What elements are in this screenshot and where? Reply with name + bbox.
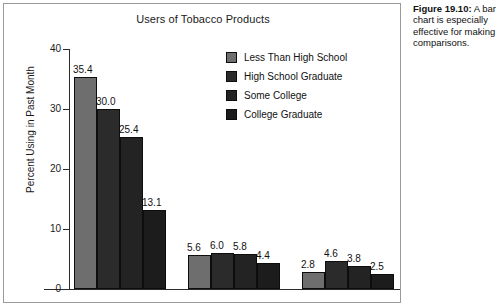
bar-value-label: 2.8: [301, 260, 315, 270]
bar-value-label: 25.4: [119, 125, 138, 135]
bar[interactable]: [234, 254, 257, 289]
bar-group: 35.430.025.413.1: [74, 49, 166, 289]
bar[interactable]: [348, 266, 371, 289]
y-axis-title: Percent Using in Past Month: [25, 30, 36, 230]
y-tick-label: 20: [31, 164, 61, 174]
y-tick-label: 10: [31, 224, 61, 234]
legend-item[interactable]: Less Than High School: [226, 49, 396, 66]
bar-value-label: 35.4: [73, 65, 92, 75]
bar-value-label: 2.5: [370, 262, 384, 272]
bar-value-label: 3.8: [347, 254, 361, 264]
bar-value-label: 6.0: [210, 241, 224, 251]
legend-item[interactable]: Some College: [226, 87, 396, 104]
y-tick-label: 30: [31, 104, 61, 114]
bar-value-label: 30.0: [96, 97, 115, 107]
figure-number: Figure 19.10:: [413, 3, 472, 14]
y-tick-label-wrap: 20: [4, 164, 61, 174]
y-tick-label: 0: [31, 284, 61, 294]
x-axis-line: [44, 289, 400, 290]
y-tick-label-wrap: 30: [4, 104, 61, 114]
bar[interactable]: [143, 210, 166, 289]
legend-swatch-icon: [226, 52, 237, 63]
y-tick-label: 40: [31, 44, 61, 54]
legend-swatch-icon: [226, 109, 237, 120]
y-tick-mark: [63, 229, 69, 230]
bar[interactable]: [120, 137, 143, 289]
chart-legend: Less Than High SchoolHigh School Graduat…: [226, 49, 396, 125]
legend-swatch-icon: [226, 90, 237, 101]
legend-label: Some College: [244, 90, 307, 101]
bar[interactable]: [371, 274, 394, 289]
figure-page: Users of Tobacco Products Percent Using …: [0, 0, 504, 306]
legend-label: College Graduate: [244, 109, 322, 120]
bar[interactable]: [302, 272, 325, 289]
y-tick-mark: [63, 49, 69, 50]
y-tick-label-wrap: 40: [4, 44, 61, 54]
bar[interactable]: [257, 263, 280, 289]
legend-label: Less Than High School: [244, 52, 347, 63]
bar[interactable]: [74, 77, 97, 289]
bar[interactable]: [211, 253, 234, 289]
y-tick-mark: [63, 169, 69, 170]
y-tick-label-wrap: 0: [4, 284, 61, 294]
bar-value-label: 4.6: [324, 249, 338, 259]
bar[interactable]: [188, 255, 211, 289]
y-tick-mark: [63, 109, 69, 110]
y-tick-label-wrap: 10: [4, 224, 61, 234]
chart-title: Users of Tobacco Products: [4, 13, 402, 25]
bar[interactable]: [325, 261, 348, 289]
figure-caption: Figure 19.10: A bar chart is especially …: [413, 3, 501, 49]
chart-frame: Users of Tobacco Products Percent Using …: [3, 3, 401, 303]
y-tick-mark: [63, 289, 69, 290]
legend-item[interactable]: College Graduate: [226, 106, 396, 123]
bar-value-label: 4.4: [256, 251, 270, 261]
bar-value-label: 13.1: [142, 198, 161, 208]
bar-value-label: 5.6: [187, 243, 201, 253]
bar[interactable]: [97, 109, 120, 289]
legend-label: High School Graduate: [244, 71, 342, 82]
bar-value-label: 5.8: [233, 242, 247, 252]
legend-swatch-icon: [226, 71, 237, 82]
legend-item[interactable]: High School Graduate: [226, 68, 396, 85]
